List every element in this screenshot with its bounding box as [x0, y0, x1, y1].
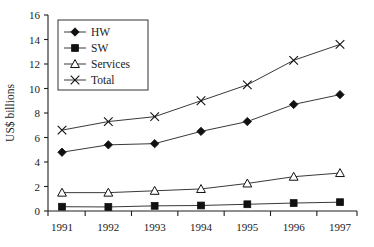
x-tick-label: 1991 — [51, 221, 73, 233]
data-point-sw-1997 — [337, 199, 344, 206]
data-point-hw-1992 — [104, 141, 112, 149]
x-tick-label: 1992 — [97, 221, 119, 233]
x-axis-ticks: 1991199219931994199519961997 — [48, 211, 357, 233]
x-tick-label: 1995 — [236, 221, 259, 233]
data-point-hw-1993 — [150, 139, 158, 147]
y-tick-label: 6 — [35, 132, 41, 144]
data-point-hw-1991 — [58, 148, 66, 156]
y-axis-title: US$ billions — [4, 84, 16, 142]
legend-label-total: Total — [91, 74, 114, 86]
series-line-hw — [62, 95, 340, 153]
data-point-hw-1997 — [336, 90, 344, 98]
x-tick-label: 1994 — [190, 221, 213, 233]
legend-label-sw: SW — [91, 42, 108, 54]
series-sw — [59, 199, 344, 211]
data-point-services-1997 — [336, 169, 345, 177]
legend: HWSWServicesTotal — [58, 20, 148, 90]
data-point-sw-1996 — [290, 200, 297, 207]
data-point-hw-1994 — [197, 127, 205, 135]
y-tick-label: 2 — [35, 181, 41, 193]
y-tick-label: 10 — [29, 83, 41, 95]
legend-label-hw: HW — [91, 26, 110, 38]
y-tick-label: 8 — [35, 107, 41, 119]
legend-label-services: Services — [91, 58, 130, 70]
x-tick-label: 1993 — [144, 221, 167, 233]
data-point-hw-1995 — [243, 117, 251, 125]
chart-canvas: 0246810121416199119921993199419951996199… — [0, 0, 374, 247]
x-tick-label: 1996 — [283, 221, 306, 233]
y-tick-label: 0 — [35, 205, 41, 217]
legend-marker-sw — [72, 45, 79, 52]
series-services — [58, 169, 345, 197]
y-tick-label: 4 — [35, 156, 41, 168]
data-point-sw-1992 — [105, 204, 112, 211]
y-tick-label: 14 — [29, 34, 41, 46]
data-point-sw-1994 — [198, 202, 205, 209]
y-tick-label: 12 — [29, 58, 40, 70]
y-tick-label: 16 — [29, 9, 41, 21]
data-point-sw-1993 — [151, 202, 158, 209]
line-chart: 0246810121416199119921993199419951996199… — [0, 0, 374, 247]
x-tick-label: 1997 — [329, 221, 352, 233]
data-point-sw-1995 — [244, 201, 251, 208]
y-axis-ticks: 0246810121416 — [29, 9, 48, 217]
data-point-hw-1996 — [289, 100, 297, 108]
data-point-sw-1991 — [59, 203, 66, 210]
